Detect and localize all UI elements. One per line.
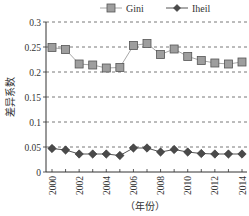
y-axis-title: 差异系数 (4, 77, 16, 117)
diamond-marker (224, 150, 232, 158)
x-tick-label: 2014 (238, 176, 248, 195)
diamond-marker (129, 144, 137, 152)
legend-item-gini: Gini (100, 3, 144, 14)
series-group (48, 40, 246, 160)
square-marker (224, 60, 232, 68)
legend-label: Gini (126, 3, 144, 14)
y-tick-label: 0.3 (29, 18, 41, 28)
x-tick-label: 2000 (48, 176, 58, 195)
diamond-marker (116, 151, 124, 159)
diamond-marker (197, 149, 205, 157)
x-tick-label: 2004 (102, 176, 112, 195)
x-tick-label: 2012 (210, 176, 220, 195)
square-marker (143, 40, 151, 48)
diamond-marker (156, 148, 164, 156)
square-marker (116, 64, 124, 72)
x-axis-title: （年份） (125, 200, 165, 212)
diamond-marker (48, 144, 56, 152)
square-marker (238, 58, 246, 66)
square-marker (184, 53, 192, 61)
y-tick-label: 0 (36, 168, 41, 178)
square-marker (211, 59, 219, 67)
square-marker (75, 60, 83, 68)
diamond-marker (61, 146, 69, 154)
diamond-marker (238, 150, 246, 158)
diamond-marker (184, 148, 192, 156)
y-tick-label: 0.25 (24, 43, 41, 53)
diamond-marker (211, 150, 219, 158)
square-marker (48, 44, 56, 52)
diamond-marker (75, 150, 83, 158)
series-gini (48, 40, 246, 73)
line-chart: GiniIheil 00.050.10.150.20.250.320002002… (0, 0, 249, 216)
y-tick-label: 0.1 (29, 118, 41, 128)
square-marker (107, 4, 115, 12)
series-iheil (48, 144, 246, 160)
diamond-marker (170, 145, 178, 153)
square-marker (62, 46, 70, 54)
diamond-marker (143, 144, 151, 152)
diamond-marker (102, 150, 110, 158)
x-tick-label: 2006 (129, 176, 139, 195)
y-tick-label: 0.2 (29, 68, 41, 78)
y-tick-label: 0.05 (24, 143, 41, 153)
legend: GiniIheil (100, 3, 211, 14)
legend-label: Iheil (192, 3, 211, 14)
square-marker (170, 45, 178, 53)
diamond-marker (89, 150, 97, 158)
square-marker (197, 57, 205, 65)
x-tick-label: 2008 (156, 176, 166, 195)
y-tick-label: 0.15 (24, 93, 41, 103)
square-marker (157, 51, 165, 59)
x-tick-label: 2002 (75, 176, 85, 195)
x-tick-label: 2010 (183, 176, 193, 195)
diamond-marker (174, 5, 181, 12)
legend-item-iheil: Iheil (166, 3, 211, 14)
square-marker (102, 64, 110, 72)
square-marker (129, 42, 137, 50)
square-marker (89, 61, 97, 69)
